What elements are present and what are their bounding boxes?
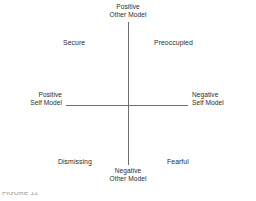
axis-label-positive-self-model: Positive Self Model	[30, 91, 62, 107]
quadrant-label-secure: Secure	[63, 39, 85, 47]
axis-label-line-1: Negative	[192, 91, 224, 99]
quadrant-label-preoccupied: Preoccupied	[154, 39, 193, 47]
axis-label-line-2: Self Model	[30, 99, 62, 107]
vertical-axis-line	[128, 22, 129, 165]
quadrant-label-fearful: Fearful	[167, 158, 189, 166]
figure-caption-clipped: FIGURE 11	[2, 192, 68, 199]
quadrant-label-dismissing: Dismissing	[58, 158, 92, 166]
axis-label-line-1: Positive	[110, 3, 147, 11]
attachment-quadrant-figure: Positive Other Model Negative Other Mode…	[0, 0, 256, 201]
horizontal-axis-line	[66, 105, 188, 106]
axis-label-line-2: Other Model	[110, 175, 147, 183]
axis-label-line-1: Negative	[110, 167, 147, 175]
axis-label-line-1: Positive	[30, 91, 62, 99]
axis-label-positive-other-model: Positive Other Model	[110, 3, 147, 19]
axis-label-line-2: Self Model	[192, 99, 224, 107]
axis-label-line-2: Other Model	[110, 11, 147, 19]
figure-caption-text: FIGURE 11	[2, 192, 68, 196]
axis-label-negative-other-model: Negative Other Model	[110, 167, 147, 183]
axis-label-negative-self-model: Negative Self Model	[192, 91, 224, 107]
